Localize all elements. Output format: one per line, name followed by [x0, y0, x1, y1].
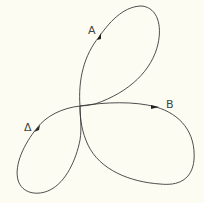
label-b: B — [166, 98, 174, 111]
top-loop — [80, 6, 160, 106]
right-loop — [80, 103, 194, 185]
label-a: A — [88, 24, 96, 37]
label-delta: Δ — [24, 121, 32, 134]
left-loop — [17, 106, 81, 193]
trefoil-diagram: A B Δ — [0, 0, 204, 203]
arrow-marker-b — [151, 105, 159, 109]
